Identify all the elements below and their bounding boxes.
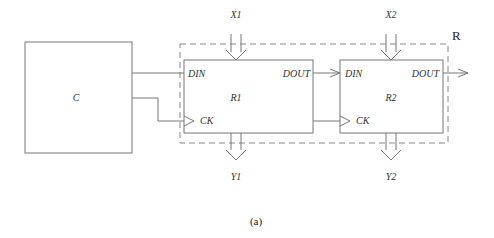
y1-bus-arrow-icon [226, 133, 246, 160]
figure-caption: (a) [250, 215, 263, 228]
x2-label: X2 [384, 9, 396, 20]
group-label: R [452, 28, 461, 43]
block-diagram: C R DIN DOUT R1 CK DIN DOUT R2 CK X1 X2 [0, 0, 494, 238]
x1-bus-arrow-icon [226, 34, 246, 60]
r2-label: R2 [384, 92, 396, 103]
y2-bus-arrow-icon [381, 133, 401, 160]
r2-din-label: DIN [344, 68, 364, 79]
r1-label: R1 [229, 92, 241, 103]
r2-clock-triangle-icon [340, 116, 350, 126]
y1-label: Y1 [231, 171, 242, 182]
r2-dout-label: DOUT [411, 68, 441, 79]
register-group-boundary [180, 44, 448, 143]
x1-label: X1 [229, 9, 241, 20]
r2-ck-label: CK [356, 115, 371, 126]
c-to-r1-ck-wire [132, 98, 184, 121]
x2-bus-arrow-icon [381, 34, 401, 60]
y2-label: Y2 [386, 171, 397, 182]
r1-clock-triangle-icon [184, 116, 194, 126]
r1-din-label: DIN [187, 68, 207, 79]
r1-ck-label: CK [200, 115, 215, 126]
r1-dout-label: DOUT [282, 68, 312, 79]
controller-label: C [73, 92, 80, 103]
